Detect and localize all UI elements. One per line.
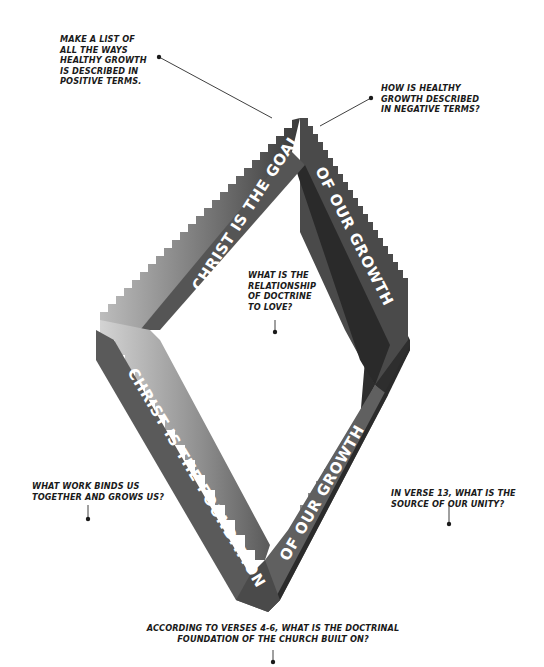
leader-doctrine-love [273,320,277,334]
question-positive-terms: MAKE A LIST OF ALL THE WAYS HEALTHY GROW… [60,34,147,87]
leader-work-binds [86,505,90,521]
question-doctrinal-foundation: ACCORDING TO VERSES 4-6, WHAT IS THE DOC… [120,623,426,644]
question-source-unity: IN VERSE 13, WHAT IS THE SOURCE OF OUR U… [391,488,516,509]
question-doctrine-love: WHAT IS THE RELATIONSHIP OF DOCTRINE TO … [248,270,316,312]
leader-doctrinal-foundation [271,650,275,664]
question-work-binds: WHAT WORK BINDS US TOGETHER AND GROWS US… [32,481,164,502]
leader-negative [320,96,373,126]
question-negative-terms: HOW IS HEALTHY GROWTH DESCRIBED IN NEGAT… [381,83,480,115]
band-label-growth-bottom: OF OUR GROWTH [276,422,368,564]
leader-positive [157,55,272,118]
band-label-foundation: CHRIST IS THE FOUNDATION [124,365,270,591]
